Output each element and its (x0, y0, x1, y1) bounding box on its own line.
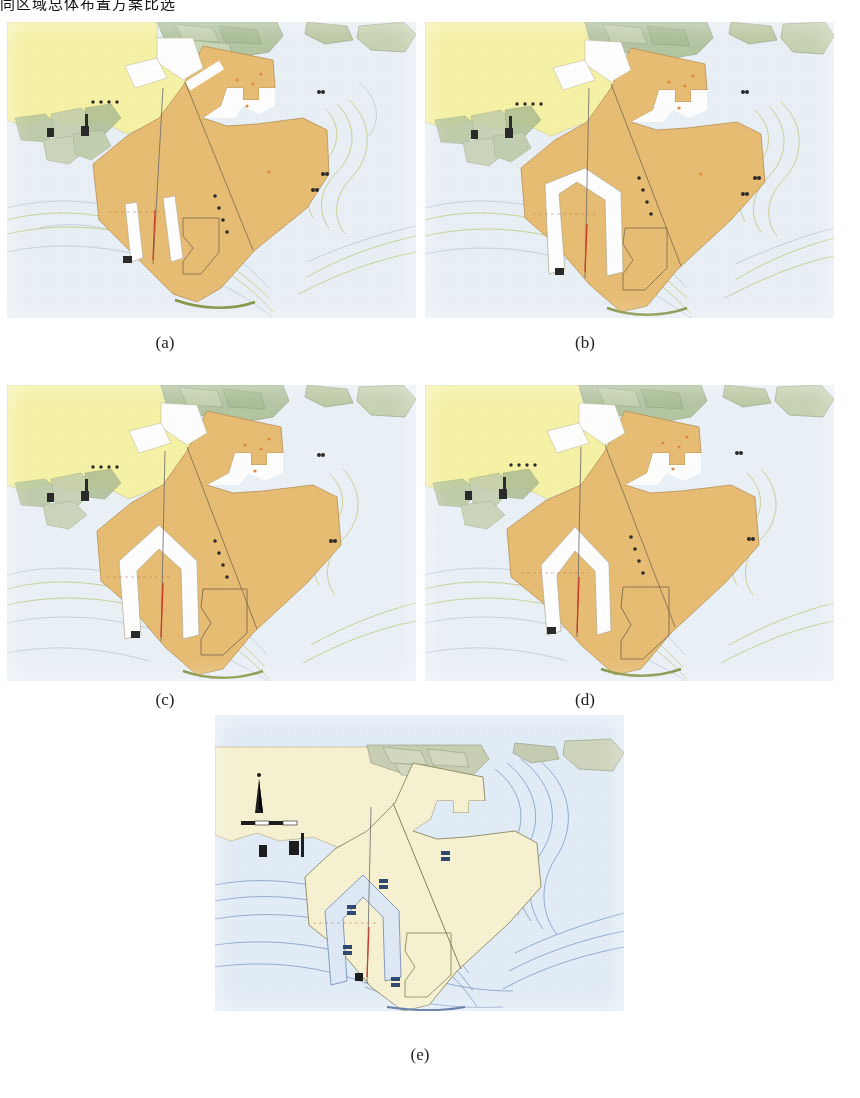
panel-c-map (7, 385, 416, 681)
scale-bar-icon (241, 821, 297, 825)
figure-panel-d (425, 385, 834, 681)
top-caption: 同区域总体布置方案比选 (0, 0, 300, 12)
panel-label-d: (d) (530, 690, 640, 710)
panel-label-a: (a) (110, 333, 220, 353)
figure-panel-e (215, 715, 624, 1011)
figure-panel-a (7, 22, 416, 318)
panel-label-c: (c) (110, 690, 220, 710)
figure-panel-b (425, 22, 834, 318)
figure-panel-c (7, 385, 416, 681)
panel-d-map (425, 385, 834, 681)
panel-label-e: (e) (365, 1045, 475, 1065)
panel-e-map (215, 715, 624, 1011)
panel-label-b: (b) (530, 333, 640, 353)
panel-a-map (7, 22, 416, 318)
panel-b-map (425, 22, 834, 318)
